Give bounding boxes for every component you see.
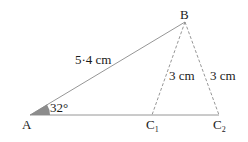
point-a-label: A [22, 117, 32, 132]
length-bc1-label: 3 cm [169, 68, 195, 83]
triangle-diagram: B A C1 C2 5·4 cm 3 cm 3 cm 32° [0, 0, 248, 142]
point-c2-label: C2 [213, 117, 226, 134]
length-bc2-label: 3 cm [210, 68, 236, 83]
point-b-label: B [180, 7, 189, 22]
length-ab-label: 5·4 cm [75, 52, 111, 67]
angle-a-label: 32° [50, 100, 68, 115]
point-c1-label: C1 [146, 117, 159, 134]
